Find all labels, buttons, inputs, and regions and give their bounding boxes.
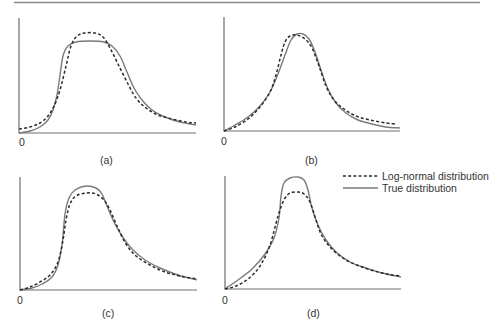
origin-label-c: 0 xyxy=(17,294,23,306)
panel-d-lognormal-curve xyxy=(225,192,401,289)
origin-label-a: 0 xyxy=(19,136,25,148)
legend: Log-normal distribution True distributio… xyxy=(343,170,489,194)
panel-label-a: (a) xyxy=(100,154,113,166)
panel-label-c: (c) xyxy=(102,307,114,319)
panel-a-axes xyxy=(19,18,196,133)
panel-a xyxy=(19,18,196,133)
figure-canvas: Log-normal distribution True distributio… xyxy=(0,0,498,335)
panel-d xyxy=(225,176,401,289)
panel-b-axes xyxy=(224,17,400,131)
panel-c-lognormal-curve xyxy=(20,193,197,290)
panel-b-lognormal-curve xyxy=(224,35,396,131)
origin-label-d: 0 xyxy=(222,294,228,306)
panel-a-lognormal-curve xyxy=(19,33,196,129)
panels-group xyxy=(19,17,401,290)
panel-label-d: (d) xyxy=(307,307,320,319)
panel-c-true-curve xyxy=(20,186,197,290)
panel-label-b: (b) xyxy=(305,154,318,166)
legend-true-label: True distribution xyxy=(382,182,457,194)
panel-c xyxy=(20,177,197,290)
origin-label-b: 0 xyxy=(221,135,227,147)
panel-b xyxy=(224,17,400,131)
legend-lognormal-label: Log-normal distribution xyxy=(382,170,489,182)
panel-d-axes xyxy=(225,176,401,289)
panel-d-true-curve xyxy=(225,177,401,289)
panel-b-true-curve xyxy=(224,33,400,131)
